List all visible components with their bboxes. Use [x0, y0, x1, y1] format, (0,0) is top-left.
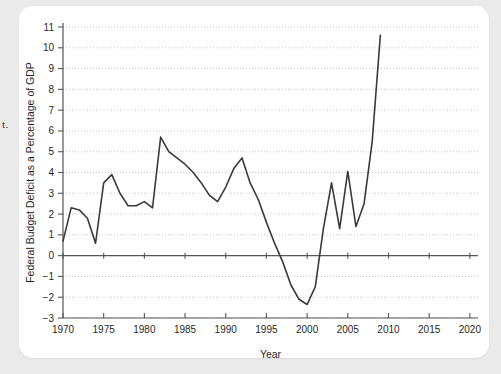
y-tick-label: −2 — [43, 292, 55, 303]
y-tick-label: 4 — [48, 167, 54, 178]
y-tick-label: 3 — [48, 188, 54, 199]
x-tick-label: 1980 — [133, 324, 156, 335]
y-tick-label: −1 — [43, 271, 55, 282]
gridlines — [63, 27, 478, 318]
y-tick-label: 2 — [48, 209, 54, 220]
y-tick-label: 9 — [48, 63, 54, 74]
x-axis-title: Year — [260, 348, 282, 360]
x-axis-ticks — [63, 313, 470, 318]
y-tick-label: 1 — [48, 229, 54, 240]
y-tick-label: 5 — [48, 146, 54, 157]
figure-root: t. −3−2−101234567891011 1970197519801985… — [0, 0, 501, 374]
y-tick-label: −3 — [43, 313, 55, 324]
x-tick-label: 1995 — [255, 324, 278, 335]
y-tick-label: 7 — [48, 105, 54, 116]
x-tick-label: 1990 — [215, 324, 238, 335]
y-tick-label: 8 — [48, 84, 54, 95]
x-tick-label: 1970 — [52, 324, 75, 335]
x-tick-label: 2000 — [296, 324, 319, 335]
y-axis-title: Federal Budget Deficit as a Percentage o… — [24, 62, 36, 283]
x-axis-tick-labels: 1970197519801985199019952000200520102015… — [52, 324, 482, 335]
x-tick-label: 2010 — [377, 324, 400, 335]
y-axis-ticks — [58, 27, 63, 318]
y-tick-label: 11 — [44, 22, 55, 33]
x-tick-label: 2005 — [337, 324, 360, 335]
y-tick-label: 0 — [48, 250, 54, 261]
deficit-series-line — [63, 35, 380, 304]
line-chart: −3−2−101234567891011 1970197519801985199… — [0, 0, 501, 374]
y-axis-tick-labels: −3−2−101234567891011 — [43, 22, 55, 324]
y-tick-label: 10 — [43, 42, 55, 53]
y-tick-label: 6 — [48, 125, 54, 136]
x-tick-label: 2015 — [418, 324, 441, 335]
x-tick-label: 1985 — [174, 324, 197, 335]
x-tick-label: 2020 — [459, 324, 482, 335]
x-tick-label: 1975 — [93, 324, 116, 335]
